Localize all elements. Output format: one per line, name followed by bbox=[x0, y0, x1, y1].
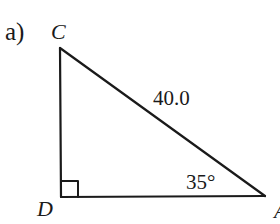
vertex-label-d: D bbox=[36, 196, 53, 221]
vertex-label-a: A bbox=[272, 198, 280, 223]
triangle-diagram: a) C D A 40.0 35° bbox=[0, 0, 280, 224]
side-da bbox=[61, 196, 265, 197]
part-label: a) bbox=[5, 18, 24, 46]
hypotenuse-length-label: 40.0 bbox=[153, 86, 190, 110]
right-angle-marker bbox=[62, 181, 78, 197]
side-cd bbox=[60, 48, 61, 197]
angle-label: 35° bbox=[186, 170, 215, 194]
side-ca-hypotenuse bbox=[60, 48, 265, 196]
vertex-label-c: C bbox=[51, 19, 66, 44]
